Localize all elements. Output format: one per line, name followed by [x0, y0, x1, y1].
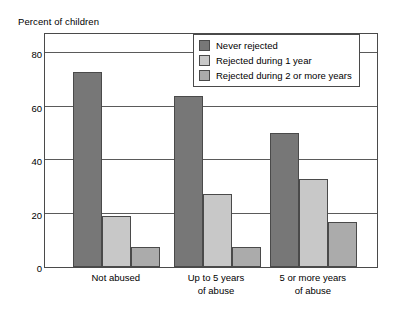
- y-tick-label-20: 20: [12, 209, 42, 220]
- legend-swatch-icon: [199, 70, 210, 81]
- bar: [328, 222, 357, 267]
- y-axis-title: Percent of children: [18, 16, 99, 27]
- bar: [73, 72, 102, 267]
- bar: [270, 133, 299, 267]
- legend-item: Never rejected: [199, 38, 352, 53]
- bar: [203, 194, 232, 267]
- x-label-line: 5 or more years: [253, 272, 373, 285]
- bar-group: [73, 34, 160, 267]
- legend-item: Rejected during 2 or more years: [199, 68, 352, 83]
- bar: [174, 96, 203, 267]
- y-tick-label-40: 40: [12, 156, 42, 167]
- legend-label: Rejected during 1 year: [216, 55, 312, 66]
- bar: [131, 247, 160, 267]
- plot-area: Never rejectedRejected during 1 yearReje…: [44, 33, 378, 268]
- y-tick-label-0: 0: [12, 263, 42, 274]
- x-label-line: of abuse: [253, 285, 373, 298]
- legend-label: Never rejected: [216, 40, 278, 51]
- x-axis-category-labels: Not abusedUp to 5 yearsof abuse5 or more…: [44, 272, 378, 316]
- legend: Never rejectedRejected during 1 yearReje…: [193, 34, 360, 87]
- legend-swatch-icon: [199, 40, 210, 51]
- bar: [232, 247, 261, 267]
- bar-chart: Percent of children Never rejectedReject…: [0, 0, 398, 319]
- bar: [102, 216, 131, 267]
- y-tick-label-80: 80: [12, 49, 42, 60]
- legend-label: Rejected during 2 or more years: [216, 70, 352, 81]
- legend-item: Rejected during 1 year: [199, 53, 352, 68]
- y-tick-label-60: 60: [12, 102, 42, 113]
- x-axis-label: 5 or more yearsof abuse: [253, 272, 373, 297]
- bar: [299, 179, 328, 267]
- legend-swatch-icon: [199, 55, 210, 66]
